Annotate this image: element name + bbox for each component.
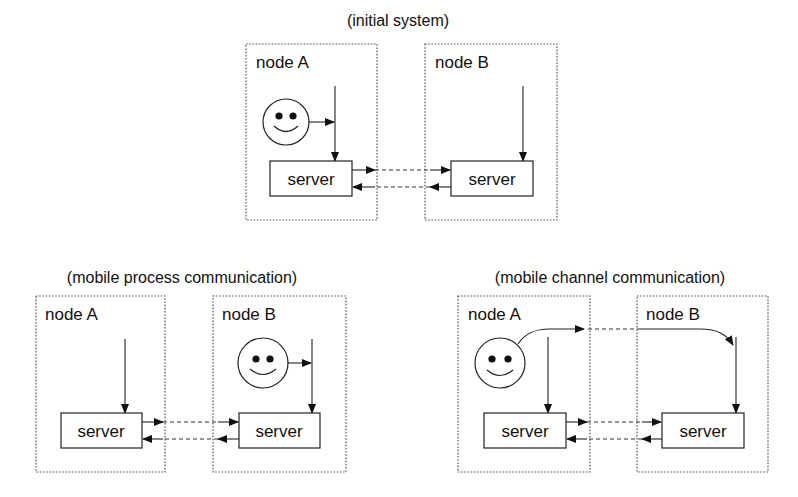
server-label: server: [679, 422, 727, 441]
node-label: node A: [468, 305, 522, 324]
server-label: server: [255, 422, 303, 441]
diagram-canvas: (initial system) node A server node B se…: [0, 0, 798, 497]
smiley-face-icon: [238, 338, 288, 388]
server-link: [142, 422, 239, 439]
server-link: [566, 422, 662, 439]
remote-channel-arrow: [518, 329, 733, 345]
server-label: server: [287, 170, 335, 189]
panel-title: (mobile process communication): [67, 269, 297, 286]
node-b: node B server: [425, 44, 557, 220]
server-label: server: [468, 170, 516, 189]
panel-initial-system: (initial system) node A server node B se…: [246, 12, 557, 220]
smiley-face-icon: [263, 99, 309, 145]
node-label: node B: [435, 53, 489, 72]
panel-title: (initial system): [347, 12, 449, 29]
node-a: node A server: [36, 296, 165, 472]
server-link: [352, 170, 451, 187]
node-label: node B: [646, 305, 700, 324]
node-label: node A: [256, 53, 310, 72]
node-a: node A server: [458, 296, 590, 472]
node-label: node A: [45, 305, 99, 324]
panel-mobile-process-communication: (mobile process communication) node A se…: [36, 269, 346, 472]
panel-title: (mobile channel communication): [495, 269, 725, 286]
server-label: server: [501, 422, 549, 441]
smiley-face-icon: [475, 338, 525, 388]
node-b: node B server: [637, 296, 768, 472]
node-b: node B server: [213, 296, 346, 472]
server-label: server: [77, 422, 125, 441]
node-a: node A server: [246, 44, 377, 220]
panel-mobile-channel-communication: (mobile channel communication) node A se…: [458, 269, 768, 472]
node-label: node B: [222, 305, 276, 324]
